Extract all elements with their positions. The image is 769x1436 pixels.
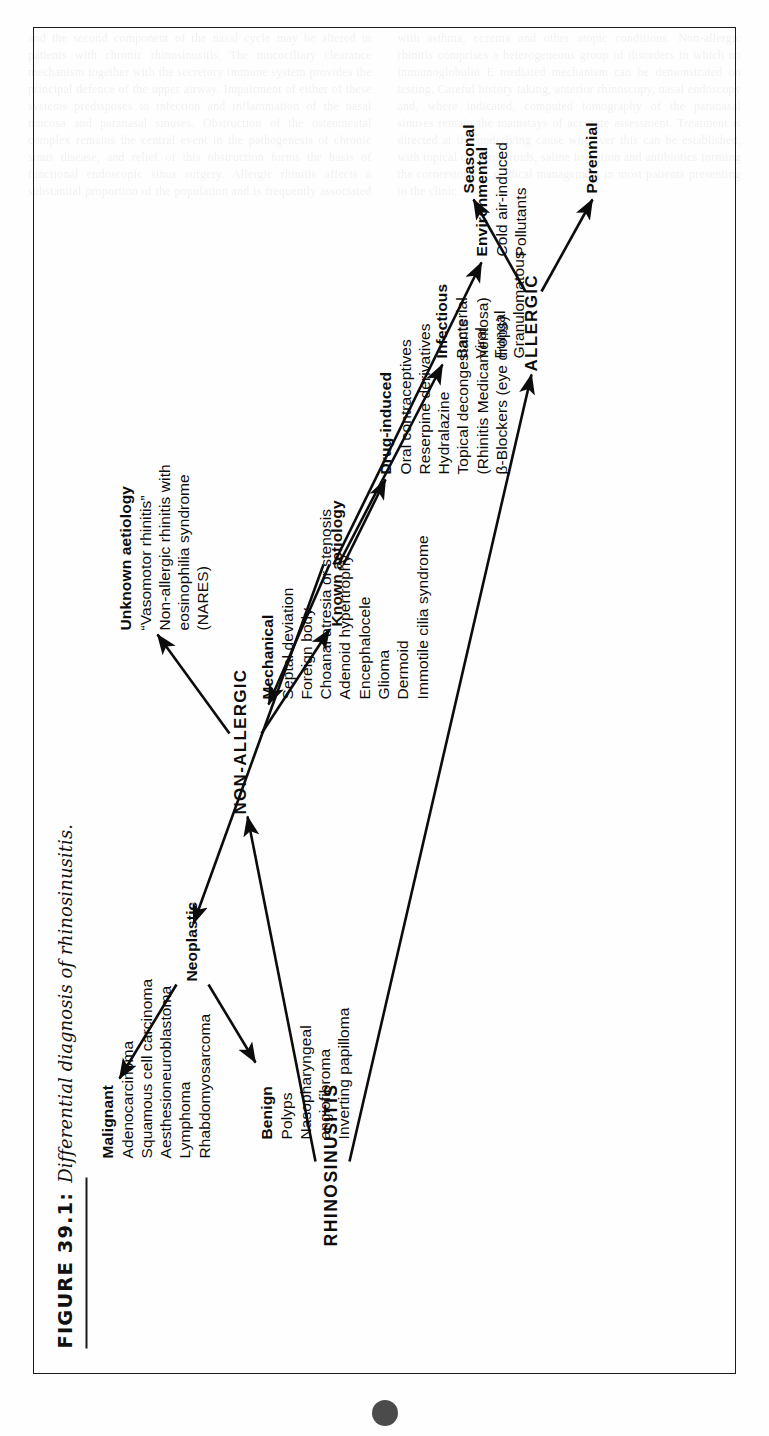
node-items-environmental: Cold air-induced Pollutants (491, 142, 530, 256)
node-label-mechanical: Mechanical (257, 508, 277, 699)
list-item: Adenoid hypertrophy (334, 508, 353, 699)
list-item: Foreign body (296, 508, 315, 699)
node-label-unknown-aetiology: Unknown aetiology (115, 464, 135, 630)
node-label-perennial: Perennial (581, 122, 601, 193)
list-item: Topical decongestants (452, 297, 471, 474)
list-item: Encephalocele (354, 508, 373, 699)
list-item: (NARES) (192, 464, 211, 630)
list-item: Septal deviation (277, 508, 296, 699)
list-item: Choanal atresia or stenosis (315, 508, 334, 699)
list-item: Reserpine derivatives (414, 297, 433, 474)
node-label-benign: Benign (256, 1007, 276, 1139)
node-drug-induced: Drug-induced Oral contraceptives Reserpi… (375, 297, 510, 474)
list-item: Immotile cilia syndrome (412, 508, 431, 699)
figure-stage: FIGURE 39.1: Differential diagnosis of r… (33, 27, 736, 1374)
node-items-benign: Polyps Nasopharyngeal angiofibroma Inver… (276, 1007, 353, 1139)
node-mechanical: Mechanical Septal deviation Foreign body… (257, 508, 431, 699)
list-item: Adenocarcinoma (117, 978, 136, 1158)
node-items-drug-induced: Oral contraceptives Reserpine derivative… (395, 297, 511, 474)
node-malignant: Malignant Adenocarcinoma Squamous cell c… (97, 978, 213, 1158)
list-item: Granulomatous (508, 251, 527, 358)
node-perennial: Perennial (581, 122, 601, 193)
node-items-unknown-aetiology: “Vasomotor rhinitis” Non-allergic rhinit… (135, 464, 212, 630)
list-item: Dermoid (392, 508, 411, 699)
node-benign: Benign Polyps Nasopharyngeal angiofibrom… (256, 1007, 353, 1139)
list-item: Nasopharyngeal (295, 1007, 314, 1139)
node-neoplastic: Neoplastic (181, 901, 201, 981)
list-item: Cold air-induced (491, 142, 510, 256)
node-label-non-allergic: NON-ALLERGIC (230, 668, 250, 814)
list-item: angiofibroma (314, 1007, 333, 1139)
page-number-badge (372, 1400, 398, 1426)
node-label-malignant: Malignant (97, 978, 117, 1158)
node-environmental: Environmental Cold air-induced Pollutant… (471, 142, 529, 256)
node-label-drug-induced: Drug-induced (375, 297, 395, 474)
node-items-malignant: Adenocarcinoma Squamous cell carcinoma A… (117, 978, 213, 1158)
list-item: Squamous cell carcinoma (136, 978, 155, 1158)
list-item: Aesthesioneuroblastoma (155, 978, 174, 1158)
list-item: Glioma (373, 508, 392, 699)
list-item: Non-allergic rhinitis with (154, 464, 173, 630)
list-item: “Vasomotor rhinitis” (135, 464, 154, 630)
node-label-environmental: Environmental (471, 142, 491, 256)
list-item: Oral contraceptives (395, 297, 414, 474)
list-item: Lymphoma (174, 978, 193, 1158)
list-item: β-Blockers (eye drops) (491, 297, 510, 474)
list-item: Inverting papilloma (333, 1007, 352, 1139)
node-label-neoplastic: Neoplastic (181, 901, 201, 981)
list-item: Hydralazine (433, 297, 452, 474)
list-item: eosinophilia syndrome (173, 464, 192, 630)
node-non-allergic: NON-ALLERGIC (230, 668, 250, 814)
node-items-mechanical: Septal deviation Foreign body Choanal at… (277, 508, 431, 699)
rotated-figure-content: FIGURE 39.1: Differential diagnosis of r… (33, 27, 736, 1374)
node-unknown-aetiology: Unknown aetiology “Vasomotor rhinitis” N… (115, 464, 212, 630)
list-item: (Rhinitis Medicamentosa) (472, 297, 491, 474)
list-item: Rhabdomyosarcoma (194, 978, 213, 1158)
connector-arrows (33, 27, 736, 1374)
list-item: Pollutants (510, 142, 529, 256)
list-item: Polyps (276, 1007, 295, 1139)
